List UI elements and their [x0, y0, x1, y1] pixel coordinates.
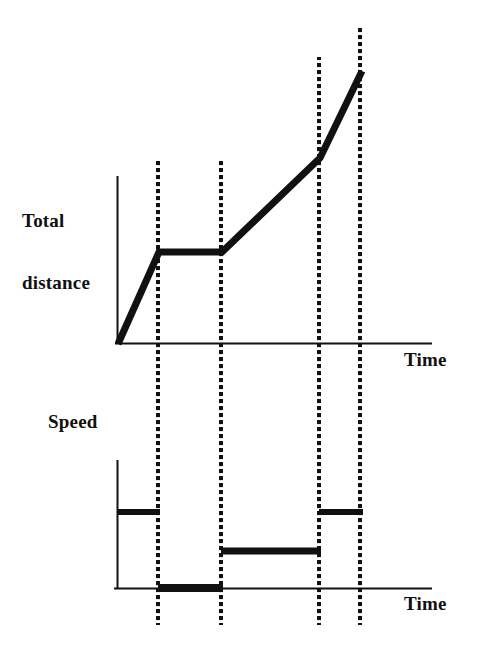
dotted-connector-4 [358, 27, 362, 625]
dotted-connector-3 [317, 57, 321, 625]
figure-canvas: Total distance Speed Time Time [0, 0, 481, 652]
time-axis-label-top: Time [404, 350, 447, 371]
total-distance-label-line1: Total [22, 211, 90, 232]
time-axis-label-bottom: Time [404, 594, 447, 615]
dotted-connectors [156, 27, 362, 625]
total-distance-chart [115, 71, 432, 344]
distance-curve [118, 71, 362, 344]
speed-chart [114, 460, 432, 589]
total-distance-label-line2: distance [22, 273, 90, 294]
dotted-connector-2 [219, 161, 223, 625]
dotted-connector-1 [156, 161, 160, 625]
speed-axis-label: Speed [48, 412, 98, 433]
total-distance-axis-label: Total distance [22, 170, 90, 334]
